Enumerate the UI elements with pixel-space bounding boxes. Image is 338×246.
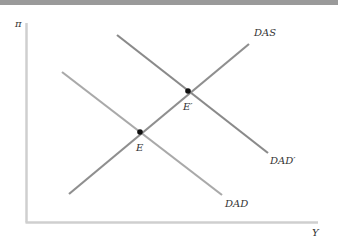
y-axis-label: π (14, 18, 22, 29)
ad-as-diagram: π Y DAS DAD DAD′ E E′ (0, 0, 338, 246)
dad-prime-label: DAD′ (269, 155, 296, 166)
equilibrium-point-e (137, 129, 143, 135)
point-e-label: E (135, 142, 144, 153)
point-e-prime-label: E′ (182, 101, 193, 112)
dad-label: DAD (224, 198, 248, 209)
x-axis-label: Y (312, 227, 320, 238)
equilibrium-point-e-prime (185, 88, 191, 94)
das-label: DAS (253, 27, 276, 38)
